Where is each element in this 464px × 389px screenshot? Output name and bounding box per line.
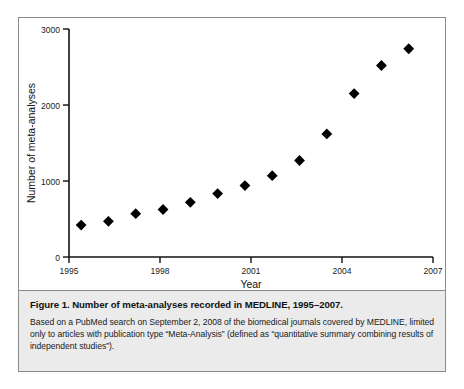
- data-point-marker: [212, 188, 223, 199]
- data-point-marker: [130, 208, 141, 219]
- data-point-marker: [403, 43, 414, 54]
- y-axis-title: Number of meta-analyses: [25, 83, 37, 203]
- x-tick-label-2001: 2001: [242, 266, 261, 276]
- x-axis-title: Year: [240, 278, 262, 290]
- data-point-marker: [376, 60, 387, 71]
- data-point-marker: [185, 197, 196, 208]
- figure-caption-body: Based on a PubMed search on September 2,…: [30, 316, 434, 353]
- figure-caption-title: Figure 1. Number of meta-analyses record…: [30, 299, 434, 310]
- figure-container: 3000 2000 1000 0 1995 1998 2001 2004 200…: [18, 17, 446, 372]
- data-point-marker: [321, 128, 332, 139]
- x-tick-label-1998: 1998: [151, 266, 170, 276]
- y-tick-label-0: 0: [55, 253, 60, 263]
- data-point-marker: [294, 155, 305, 166]
- data-point-marker: [103, 216, 114, 227]
- x-tick-label-2004: 2004: [333, 266, 352, 276]
- data-point-marker: [158, 204, 169, 215]
- x-tick-label-2007: 2007: [424, 266, 443, 276]
- data-point-marker: [240, 180, 251, 191]
- plot-region: 3000 2000 1000 0 1995 1998 2001 2004 200…: [19, 18, 445, 290]
- data-point-series: [76, 43, 414, 230]
- y-tick-label-3000: 3000: [41, 25, 60, 35]
- data-point-marker: [349, 88, 360, 99]
- data-point-marker: [267, 170, 278, 181]
- y-tick-label-1000: 1000: [41, 177, 60, 187]
- scatter-plot-svg: 3000 2000 1000 0 1995 1998 2001 2004 200…: [19, 18, 445, 290]
- data-point-marker: [76, 220, 87, 231]
- x-tick-label-1995: 1995: [60, 266, 79, 276]
- x-axis-ticks: [69, 257, 433, 263]
- y-tick-label-2000: 2000: [41, 101, 60, 111]
- caption-region: Figure 1. Number of meta-analyses record…: [19, 290, 445, 371]
- y-axis-ticks: [63, 29, 69, 257]
